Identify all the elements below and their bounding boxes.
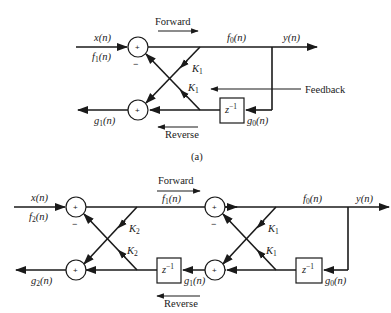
plus-sign: +: [212, 203, 217, 212]
plus-sign: +: [135, 106, 140, 115]
input-f-label-b: f2(n): [29, 211, 48, 224]
reverse-label-b: Reverse: [164, 298, 198, 309]
output-y-label-b: y(n): [355, 193, 373, 205]
k2-lower-label: K2: [126, 245, 138, 258]
delay-g-label-a: g0(n): [247, 115, 269, 128]
plus-sign: +: [212, 266, 217, 275]
caption-a: (a): [191, 151, 203, 163]
k2-upper-label: K2: [128, 223, 140, 236]
output-f-label-b: f0(n): [303, 193, 322, 206]
input-x-label-a: x(n): [93, 32, 111, 44]
panel-a: Forward x(n) f1(n) + − f0(n) y(n) K1 K1 …: [76, 16, 346, 163]
feedback-label: Feedback: [305, 84, 346, 95]
output-g-label-b: g2(n): [31, 275, 53, 288]
output-f-label-a: f0(n): [227, 32, 246, 45]
mid-f-label-b: f1(n): [162, 193, 181, 206]
panel-b: Forward x(n) f2(n) + − f1(n) K2 K2 + g2(…: [14, 175, 389, 309]
minus-sign: −: [133, 59, 138, 69]
output-y-label-a: y(n): [282, 32, 300, 44]
k1-upper-label-b: K1: [267, 223, 279, 236]
delay-g-label-b: g0(n): [325, 275, 347, 288]
k1-lower-label-b: K1: [265, 245, 277, 258]
forward-label-a: Forward: [155, 16, 191, 27]
output-g-label-a: g1(n): [94, 115, 116, 128]
forward-label-b: Forward: [158, 175, 194, 186]
mid-g-label-b: g1(n): [184, 275, 206, 288]
input-f-label-a: f1(n): [92, 51, 111, 64]
k1-lower-label-a: K1: [187, 82, 199, 95]
minus-sign: −: [72, 219, 77, 229]
plus-sign: +: [73, 266, 78, 275]
plus-sign: +: [73, 203, 78, 212]
plus-sign: +: [135, 43, 140, 52]
cross-down-a: [146, 47, 200, 103]
reverse-label-a: Reverse: [165, 129, 199, 140]
lattice-filter-diagram: Forward x(n) f1(n) + − f0(n) y(n) K1 K1 …: [0, 0, 391, 313]
k1-upper-label-a: K1: [191, 63, 203, 76]
minus-sign: −: [211, 219, 216, 229]
input-x-label-b: x(n): [30, 192, 48, 204]
